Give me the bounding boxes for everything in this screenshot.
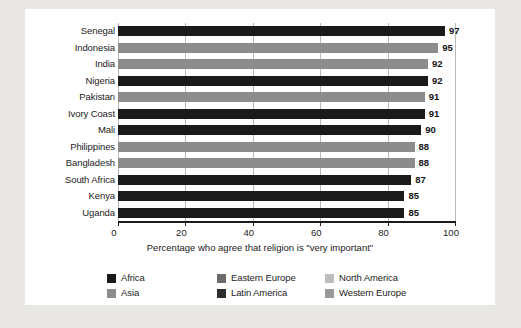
legend-item[interactable]: North America <box>325 271 398 285</box>
legend-label: North America <box>339 273 398 283</box>
bar <box>118 125 421 135</box>
bar-value-label: 87 <box>415 175 426 185</box>
figure-card: SenegalIndonesiaIndiaNigeriaPakistanIvor… <box>25 9 495 305</box>
x-tick-label: 0 <box>111 227 116 238</box>
x-tick-mark <box>253 221 254 226</box>
legend-item[interactable]: Latin America <box>217 286 287 300</box>
x-axis-line <box>118 221 456 223</box>
x-tick-mark <box>185 221 186 226</box>
legend-label: Western Europe <box>339 288 406 298</box>
y-axis-label: Senegal <box>29 26 115 36</box>
bar-row: 95 <box>118 43 455 53</box>
legend-label: Asia <box>121 288 139 298</box>
bar-value-label: 85 <box>408 191 419 201</box>
bar-row: 92 <box>118 59 455 69</box>
bar-value-label: 91 <box>429 92 440 102</box>
y-axis-label: India <box>29 59 115 69</box>
bars-plot-area: 979592929191908888878585 <box>118 23 455 221</box>
y-axis-label: Indonesia <box>29 43 115 53</box>
legend-label: Latin America <box>231 288 287 298</box>
x-tick-label: 20 <box>176 227 187 238</box>
bar-row: 85 <box>118 208 455 218</box>
x-tick-mark <box>455 221 456 226</box>
y-axis-label: Pakistan <box>29 92 115 102</box>
y-axis-label: Bangladesh <box>29 158 115 168</box>
x-tick-label: 100 <box>443 227 459 238</box>
bar-chart: SenegalIndonesiaIndiaNigeriaPakistanIvor… <box>25 9 495 305</box>
bar-value-label: 95 <box>442 43 453 53</box>
bar-row: 87 <box>118 175 455 185</box>
legend-swatch <box>217 274 226 283</box>
bar-row: 90 <box>118 125 455 135</box>
bar-value-label: 91 <box>429 109 440 119</box>
x-tick-mark <box>388 221 389 226</box>
bar <box>118 175 411 185</box>
bar-row: 88 <box>118 142 455 152</box>
legend-swatch <box>325 274 334 283</box>
legend-swatch <box>325 289 334 298</box>
y-axis-label: Uganda <box>29 208 115 218</box>
bar <box>118 191 404 201</box>
legend-item[interactable]: Western Europe <box>325 286 406 300</box>
x-tick-label: 60 <box>311 227 322 238</box>
y-axis-label: Ivory Coast <box>29 109 115 119</box>
y-axis-label: South Africa <box>29 175 115 185</box>
bar <box>118 76 428 86</box>
bar-row: 91 <box>118 92 455 102</box>
y-axis-category-labels: SenegalIndonesiaIndiaNigeriaPakistanIvor… <box>27 23 115 221</box>
bar-value-label: 97 <box>449 26 460 36</box>
bar-value-label: 88 <box>419 158 430 168</box>
bar <box>118 59 428 69</box>
x-tick-mark <box>118 221 119 226</box>
legend-swatch <box>107 289 116 298</box>
y-axis-label: Mali <box>29 125 115 135</box>
bar-value-label: 90 <box>425 125 436 135</box>
legend-item[interactable]: Africa <box>107 271 145 285</box>
x-tick-label: 80 <box>378 227 389 238</box>
bar-row: 97 <box>118 26 455 36</box>
bar <box>118 43 438 53</box>
bar-row: 91 <box>118 109 455 119</box>
chart-legend: AfricaAsiaEastern EuropeLatin AmericaNor… <box>107 271 417 303</box>
bar-value-label: 88 <box>419 142 430 152</box>
bar <box>118 109 425 119</box>
legend-swatch <box>217 289 226 298</box>
bar-value-label: 85 <box>408 208 419 218</box>
x-tick-mark <box>320 221 321 226</box>
y-axis-label: Kenya <box>29 191 115 201</box>
bar <box>118 92 425 102</box>
legend-swatch <box>107 274 116 283</box>
bar <box>118 142 415 152</box>
bar <box>118 208 404 218</box>
bar-row: 88 <box>118 158 455 168</box>
y-axis-label: Nigeria <box>29 76 115 86</box>
bar-row: 85 <box>118 191 455 201</box>
legend-item[interactable]: Asia <box>107 286 139 300</box>
x-axis-title: Percentage who agree that religion is "v… <box>25 242 495 253</box>
legend-item[interactable]: Eastern Europe <box>217 271 296 285</box>
bar-value-label: 92 <box>432 76 443 86</box>
bar <box>118 26 445 36</box>
x-tick-label: 40 <box>244 227 255 238</box>
bar-row: 92 <box>118 76 455 86</box>
bar <box>118 158 415 168</box>
bar-value-label: 92 <box>432 59 443 69</box>
gridline <box>455 23 456 221</box>
legend-label: Africa <box>121 273 145 283</box>
y-axis-label: Philippines <box>29 142 115 152</box>
legend-label: Eastern Europe <box>231 273 296 283</box>
